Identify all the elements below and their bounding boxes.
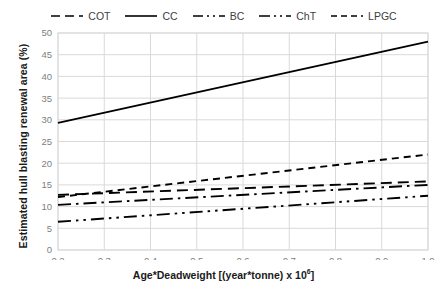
legend-label-lpgc: LPGC — [368, 11, 397, 22]
dashed-line-swatch-icon — [50, 11, 84, 21]
dash-dot-dot-line-swatch-icon — [258, 11, 292, 21]
fine-dashed-line-swatch-icon — [330, 11, 364, 21]
x-axis-title-main: Age*Deadweight [(year*tonne) x 10 — [133, 269, 307, 281]
y-axis-title: Estimated hull blasting renewal area (%) — [17, 41, 29, 251]
plot-svg: 05101520253035404550 0.20.30.40.50.60.70… — [0, 28, 447, 260]
legend-label-cot: COT — [88, 11, 110, 22]
x-axis-title-tail: ] — [311, 269, 315, 281]
svg-text:0.4: 0.4 — [144, 255, 157, 260]
y-tick-labels: 05101520253035404550 — [41, 28, 52, 255]
svg-text:0: 0 — [47, 244, 52, 255]
chart-legend: COT CC BC ChT — [0, 4, 447, 28]
svg-text:45: 45 — [41, 49, 52, 60]
svg-text:35: 35 — [41, 93, 52, 104]
chart-container: COT CC BC ChT — [0, 0, 447, 293]
dash-dot-line-swatch-icon — [192, 11, 226, 21]
svg-text:30: 30 — [41, 114, 52, 125]
legend-label-cc: CC — [162, 11, 177, 22]
x-axis-title: Age*Deadweight [(year*tonne) x 106] — [0, 268, 447, 281]
gridlines — [58, 33, 428, 250]
svg-text:20: 20 — [41, 158, 52, 169]
legend-item-bc[interactable]: BC — [192, 11, 245, 22]
svg-text:1.0: 1.0 — [421, 255, 434, 260]
x-tick-labels: 0.20.30.40.50.60.70.80.91.0 — [51, 255, 434, 260]
svg-text:50: 50 — [41, 28, 52, 38]
legend-label-bc: BC — [230, 11, 245, 22]
svg-text:0.7: 0.7 — [283, 255, 296, 260]
svg-text:40: 40 — [41, 71, 52, 82]
svg-text:0.8: 0.8 — [329, 255, 342, 260]
svg-text:15: 15 — [41, 179, 52, 190]
svg-text:5: 5 — [47, 223, 52, 234]
legend-item-lpgc[interactable]: LPGC — [330, 11, 397, 22]
legend-item-cht[interactable]: ChT — [258, 11, 316, 22]
svg-text:0.3: 0.3 — [98, 255, 111, 260]
svg-text:0.2: 0.2 — [51, 255, 64, 260]
svg-text:0.9: 0.9 — [375, 255, 388, 260]
legend-item-cc[interactable]: CC — [124, 11, 177, 22]
svg-text:10: 10 — [41, 201, 52, 212]
legend-label-cht: ChT — [296, 11, 316, 22]
plot-area: 05101520253035404550 0.20.30.40.50.60.70… — [0, 28, 447, 260]
svg-text:25: 25 — [41, 136, 52, 147]
legend-item-cot[interactable]: COT — [50, 11, 110, 22]
svg-text:0.5: 0.5 — [190, 255, 203, 260]
svg-text:0.6: 0.6 — [236, 255, 249, 260]
solid-line-swatch-icon — [124, 11, 158, 21]
